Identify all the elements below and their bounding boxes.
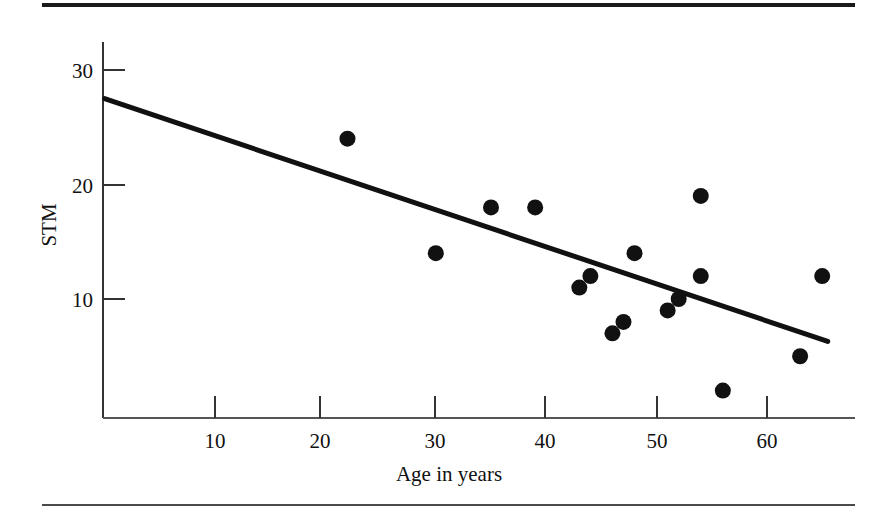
data-point [693,188,709,204]
x-tick-label-30: 30 [425,429,446,453]
x-tick-label-40: 40 [535,429,556,453]
data-point [792,348,808,364]
y-tick-label-20: 20 [72,174,93,198]
data-point [627,245,643,261]
x-axis-title: Age in years [396,462,502,486]
regression-line [105,99,828,342]
x-tick-label-10: 10 [205,429,226,453]
figure-container: 30 20 10 STM 10 20 30 40 50 60 Age in ye… [0,0,887,521]
y-tick-label-30: 30 [72,59,93,83]
data-point [339,131,355,147]
data-point [582,268,598,284]
scatter-plot: 30 20 10 STM 10 20 30 40 50 60 Age in ye… [0,0,887,521]
data-point-group [339,131,830,399]
x-tick-marks [215,396,767,418]
y-tick-label-10: 10 [72,288,93,312]
x-tick-label-20: 20 [310,429,331,453]
data-point [814,268,830,284]
x-tick-label-60: 60 [757,429,778,453]
data-point [715,383,731,399]
data-point [615,314,631,330]
x-tick-label-50: 50 [647,429,668,453]
axes-group [103,42,855,418]
y-axis-title: STM [37,203,61,247]
data-point [527,199,543,215]
data-point [693,268,709,284]
data-point [671,291,687,307]
data-point [428,245,444,261]
data-point [483,199,499,215]
